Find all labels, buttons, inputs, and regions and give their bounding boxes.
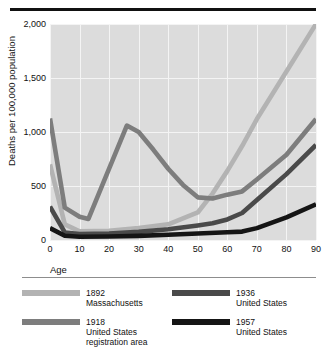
x-tick-label: 20 [104,245,114,254]
x-tick-label: 60 [222,245,232,254]
data-series-line [50,24,316,231]
legend-swatch [22,290,80,296]
legend-item: 1936United States [172,288,322,308]
gridline-vertical [316,24,317,240]
legend-swatch [172,319,230,325]
x-tick-label: 30 [134,245,144,254]
legend-place: United States [86,327,147,337]
data-series-line [50,119,316,219]
chart-legend: 1892Massachusetts1936United States1918Un… [22,288,322,344]
y-tick-label: 1,000 [23,128,46,137]
x-tick-label: 50 [193,245,203,254]
x-tick-label: 40 [163,245,173,254]
x-tick-label: 10 [75,245,85,254]
legend-item: 1918United Statesregistration area [22,317,172,347]
legend-label: 1918United Statesregistration area [86,317,147,347]
y-tick-label: 0 [41,236,46,245]
y-tick-label: 2,000 [23,20,46,29]
x-tick-label: 0 [47,245,52,254]
legend-label: 1936United States [236,288,287,308]
x-tick-label: 80 [281,245,291,254]
legend-year: 1936 [236,288,287,298]
legend-label: 1957United States [236,317,287,337]
legend-year: 1957 [236,317,287,327]
legend-year: 1918 [86,317,147,327]
x-axis-title: Age [50,264,67,275]
y-tick-label: 500 [31,182,46,191]
legend-place-line2: registration area [86,337,147,347]
gridline-horizontal [50,240,316,241]
legend-item: 1892Massachusetts [22,288,172,308]
legend-year: 1892 [86,288,143,298]
legend-item: 1957United States [172,317,322,347]
legend-swatch [172,290,230,296]
legend-place: Massachusetts [86,298,143,308]
series-lines [50,24,316,240]
x-tick-label: 90 [311,245,321,254]
figure-root: 05001,0001,5002,000 0102030405060708090 … [0,0,326,347]
y-axis-title: Deaths per 100,000 population [6,36,17,166]
legend-swatch [22,319,80,325]
legend-place: United States [236,327,287,337]
legend-label: 1892Massachusetts [86,288,143,308]
plot-area: 05001,0001,5002,000 0102030405060708090 [50,24,316,240]
top-rule [10,8,316,11]
legend-divider [22,277,316,278]
legend-place: United States [236,298,287,308]
y-tick-label: 1,500 [23,74,46,83]
x-tick-label: 70 [252,245,262,254]
chart-container: 05001,0001,5002,000 0102030405060708090 … [0,16,326,268]
